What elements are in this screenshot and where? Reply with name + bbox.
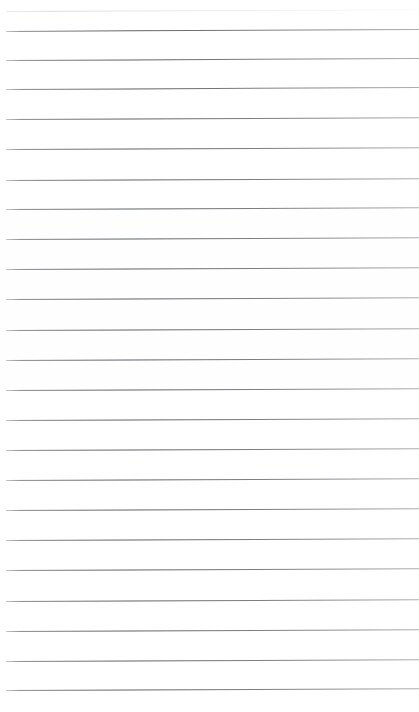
- ruled-line: [0, 538, 419, 541]
- ruled-line-right-segment: [130, 688, 419, 690]
- ruled-line-left-segment: [6, 509, 130, 511]
- ruled-line: [0, 388, 419, 391]
- ruled-line-right-segment: [130, 629, 419, 631]
- ruled-line: [0, 508, 419, 511]
- ruled-line-right-segment: [130, 117, 419, 119]
- ruled-line: [0, 9, 419, 12]
- ruled-line: [0, 297, 419, 300]
- ruled-line-right-segment: [130, 508, 419, 510]
- ruled-line-left-segment: [6, 30, 130, 32]
- ruled-line: [0, 207, 419, 210]
- scanned-page: [0, 0, 419, 712]
- ruled-line-right-segment: [130, 58, 419, 60]
- ruled-line: [0, 418, 419, 421]
- ruled-line-right-segment: [130, 9, 419, 11]
- ruled-line-left-segment: [6, 569, 130, 571]
- ruled-line: [0, 599, 419, 602]
- ruled-line-right-segment: [130, 599, 419, 601]
- ruled-line-right-segment: [130, 87, 419, 89]
- ruled-line-left-segment: [6, 208, 130, 210]
- ruled-line-right-segment: [130, 478, 419, 480]
- ruled-line: [0, 688, 419, 691]
- ruled-line-right-segment: [130, 207, 419, 209]
- ruled-line: [0, 478, 419, 481]
- ruled-line-left-segment: [6, 11, 130, 12]
- ruled-line-right-segment: [130, 568, 419, 570]
- ruled-line-left-segment: [6, 600, 130, 602]
- ruled-line: [0, 568, 419, 571]
- ruled-line-left-segment: [6, 329, 130, 331]
- ruled-line-left-segment: [6, 389, 130, 391]
- ruled-line-left-segment: [6, 238, 130, 240]
- ruled-line-left-segment: [6, 298, 130, 300]
- ruled-line: [0, 328, 419, 331]
- ruled-line: [0, 629, 419, 632]
- ruled-line-right-segment: [130, 448, 419, 450]
- ruled-line: [0, 267, 419, 270]
- paper-surface: [0, 0, 419, 712]
- ruled-line-right-segment: [130, 388, 419, 390]
- ruled-line-right-segment: [130, 659, 419, 661]
- ruled-line-right-segment: [130, 358, 419, 360]
- ruled-line-right-segment: [130, 178, 419, 180]
- ruled-line-left-segment: [6, 419, 130, 421]
- ruled-line: [0, 178, 419, 181]
- ruled-line: [0, 237, 419, 240]
- ruled-line-right-segment: [130, 538, 419, 540]
- ruled-line-left-segment: [6, 148, 130, 150]
- ruled-line-left-segment: [6, 539, 130, 541]
- ruled-line-right-segment: [130, 418, 419, 420]
- ruled-line: [0, 29, 419, 32]
- ruled-line-left-segment: [6, 479, 130, 481]
- ruled-line: [0, 358, 419, 361]
- ruled-line: [0, 448, 419, 451]
- ruled-line-right-segment: [130, 147, 419, 149]
- ruled-line: [0, 58, 419, 61]
- ruled-line-left-segment: [6, 660, 130, 662]
- ruled-line-right-segment: [130, 297, 419, 299]
- ruled-line-right-segment: [130, 29, 419, 31]
- ruled-line-right-segment: [130, 267, 419, 269]
- ruled-line-left-segment: [6, 359, 130, 361]
- ruled-line: [0, 117, 419, 120]
- ruled-line: [0, 147, 419, 150]
- ruled-line-left-segment: [6, 179, 130, 181]
- ruled-line-right-segment: [130, 237, 419, 239]
- ruled-line: [0, 659, 419, 662]
- ruled-line-left-segment: [6, 630, 130, 632]
- ruled-line-left-segment: [6, 689, 130, 691]
- ruled-line-left-segment: [6, 59, 130, 61]
- ruled-line-left-segment: [6, 268, 130, 270]
- ruled-line-left-segment: [6, 449, 130, 451]
- ruled-line-left-segment: [6, 118, 130, 120]
- ruled-line-right-segment: [130, 328, 419, 330]
- ruled-line: [0, 87, 419, 90]
- ruled-line-left-segment: [6, 88, 130, 90]
